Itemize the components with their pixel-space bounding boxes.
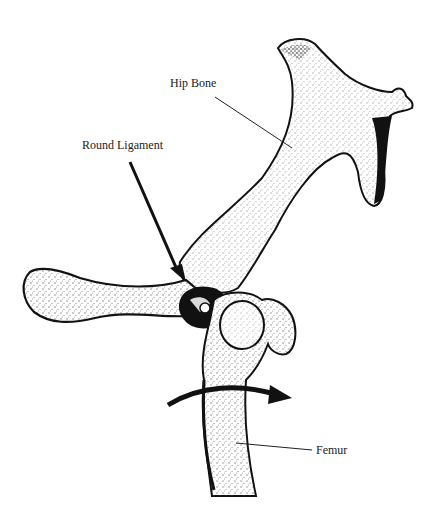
pubis [24, 269, 203, 322]
label-round-ligament: Round Ligament [82, 138, 163, 153]
hip-joint-illustration [0, 0, 440, 520]
label-femur: Femur [316, 443, 347, 458]
round-ligament-arrow [130, 162, 178, 272]
hip-bone-leader [215, 97, 292, 148]
label-hip-bone: Hip Bone [170, 76, 216, 91]
